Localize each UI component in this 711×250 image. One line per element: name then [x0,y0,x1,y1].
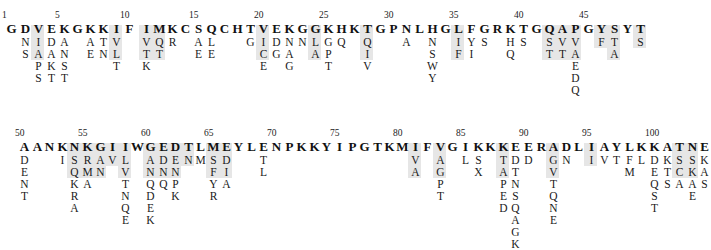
residue-column: KNAG [283,22,296,72]
variant-residue: L [205,36,218,48]
variant-residue: Y [465,36,478,48]
variant-residue: P [434,178,447,190]
variant-residue: A [220,178,233,190]
residue-column: AVT [556,22,569,60]
residue-column: VICE [257,22,270,72]
residue-column: H [231,22,244,36]
variant-residue: T [556,48,569,60]
reference-residue: G [71,22,84,36]
variant-residue: E [257,60,270,72]
variant-residue: I [32,36,45,48]
variant-residue: D [569,72,582,84]
variant-residue: V [106,154,119,166]
variant-residue: M [194,154,207,166]
variant-residue: S [634,36,647,48]
variant-residue: G [270,48,283,60]
reference-residue: H [231,22,244,36]
variant-residue: E [686,190,699,202]
residue-column: VIAPS [32,22,45,84]
residue-column: TSCA [673,140,686,190]
position-number: 20 [254,10,274,20]
variant-residue: A [45,48,58,60]
reference-residue: E [698,140,711,154]
reference-residue: F [123,22,136,36]
reference-residue: K [383,140,396,154]
reference-residue: V [257,22,270,36]
residue-column: G [439,22,452,36]
variant-residue: E [119,214,132,226]
residue-column: Y [232,140,245,154]
variant-residue: I [585,154,598,166]
variant-residue: S [698,178,711,190]
reference-residue: Y [232,140,245,154]
reference-residue: N [68,140,81,154]
residue-column: AGVTQNE [547,140,560,226]
variant-residue: N [509,178,522,190]
reference-residue: F [421,140,434,154]
variant-residue: T [547,178,560,190]
residue-column: FYI [465,22,478,60]
residue-column: NA [400,22,413,48]
variant-residue: A [144,154,157,166]
residue-column: KGPT [322,22,335,72]
position-number: 75 [330,128,350,138]
reference-residue: T [634,22,647,36]
variant-residue: S [509,190,522,202]
variant-residue: V [119,166,132,178]
reference-residue: T [361,22,374,36]
variant-residue: E [169,154,182,166]
variant-residue: K [698,154,711,166]
reference-residue: C [179,22,192,36]
variant-residue: R [166,36,179,48]
variant-residue: R [207,190,220,202]
reference-residue: K [58,22,71,36]
variant-residue: Y [207,178,220,190]
variant-residue: D [522,154,535,166]
residue-column: F [421,140,434,154]
variant-residue: Q [547,190,560,202]
variant-residue: A [608,48,621,60]
variant-residue: D [220,154,233,166]
residue-column: G [358,140,371,154]
reference-residue: I [106,140,119,154]
position-number: 1 [2,10,22,20]
variant-residue: I [220,166,233,178]
residue-column: IVLT [110,22,123,72]
reference-residue: G [5,22,18,36]
residue-column: GS [478,22,491,48]
variant-residue: N [94,166,107,178]
variant-residue: Q [144,178,157,190]
variant-residue: S [517,36,530,48]
residue-column: K [484,140,497,154]
variant-residue: V [110,36,123,48]
reference-residue: R [491,22,504,36]
variant-residue: C [673,166,686,178]
variant-residue: P [169,178,182,190]
variant-residue: T [648,202,661,214]
residue-column: IV [106,140,119,166]
reference-residue: E [522,140,535,154]
variant-residue: P [32,60,45,72]
reference-residue: E [257,140,270,154]
reference-residue: M [153,22,166,36]
residue-column: STA [608,22,621,60]
reference-residue: D [169,140,182,154]
residue-column: GANQDEK [144,140,157,226]
variant-residue: D [18,154,31,166]
residue-column: C [218,22,231,36]
residue-column: TS [634,22,647,48]
residue-column: TG [244,22,257,48]
residue-column: G [5,22,18,36]
variant-residue: T [434,190,447,202]
residue-column: TQIV [361,22,374,72]
variant-residue: K [144,214,157,226]
reference-residue: G [582,22,595,36]
variant-residue: A [569,48,582,60]
position-number: 40 [514,10,534,20]
variant-residue: V [361,60,374,72]
variant-residue: S [673,154,686,166]
variant-residue: D [509,154,522,166]
variant-residue: E [192,48,205,60]
residue-column: YF [595,22,608,48]
reference-residue: A [556,22,569,36]
